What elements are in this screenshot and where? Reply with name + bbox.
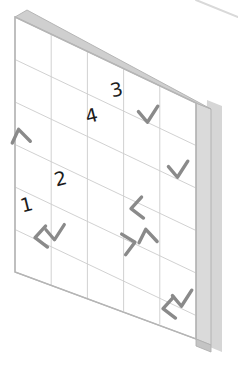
panel-right-edge (196, 103, 211, 345)
panel-face (15, 17, 196, 339)
diagonal-line (196, 0, 238, 17)
isometric-panel-scene: 3421 (0, 0, 238, 380)
scene-canvas: 3421 (0, 0, 238, 380)
